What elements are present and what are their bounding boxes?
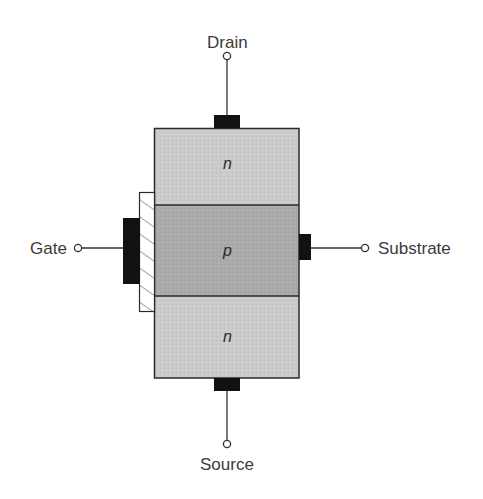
drain-terminal (223, 52, 230, 59)
substrate-terminal (361, 244, 368, 251)
substrate-label: Substrate (378, 240, 451, 257)
source-terminal (223, 440, 230, 447)
gate-label: Gate (30, 240, 67, 257)
source-label: Source (200, 456, 254, 473)
substrate-contact (299, 234, 311, 260)
n-region-bottom-label: n (223, 329, 232, 345)
n-region-top-label: n (223, 156, 232, 172)
drain-contact (214, 115, 240, 128)
drain-label: Drain (207, 34, 248, 51)
source-contact (214, 378, 240, 391)
mosfet-diagram: Drain Gate Substrate Source n p n (0, 0, 483, 499)
p-region-label: p (223, 243, 232, 259)
gate-terminal (74, 244, 81, 251)
gate-contact (123, 218, 140, 284)
